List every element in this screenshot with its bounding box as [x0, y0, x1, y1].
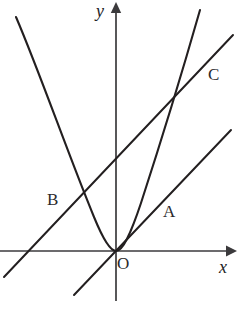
origin-label: O	[117, 255, 129, 272]
x-axis-arrow-icon	[226, 246, 237, 257]
line-through-o-and-a	[74, 130, 231, 295]
point-label-c: C	[208, 66, 219, 83]
geometry-figure: B A C O x y	[0, 0, 242, 315]
point-label-a: A	[163, 203, 175, 220]
point-label-b: B	[47, 191, 58, 208]
x-axis-label: x	[219, 258, 227, 276]
y-axis-arrow-icon	[111, 2, 121, 13]
y-axis-label: y	[96, 2, 104, 20]
